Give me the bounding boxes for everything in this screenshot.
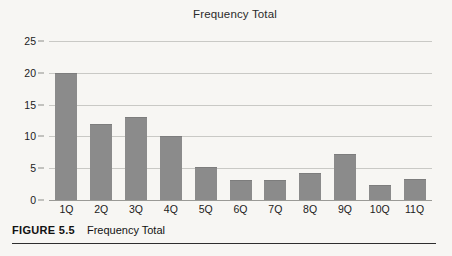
gridline-0: [49, 200, 432, 201]
x-axis-label-4Q: 4Q: [164, 203, 178, 215]
x-axis-label-1Q: 1Q: [59, 203, 73, 215]
y-axis-label-10: 10: [24, 130, 36, 142]
bar-7Q: [264, 180, 286, 200]
y-axis-label-0: 0: [30, 194, 36, 206]
x-axis-label-7Q: 7Q: [268, 203, 282, 215]
figure-caption: FIGURE 5.5Frequency Total: [12, 224, 165, 236]
figure-container: Frequency Total 0510152025 1Q2Q3Q4Q5Q6Q7…: [0, 0, 452, 256]
figure-caption-text: Frequency Total: [87, 224, 165, 236]
y-tick-10: [38, 136, 44, 137]
bar-10Q: [369, 185, 391, 200]
bar-1Q: [55, 73, 77, 200]
y-axis-label-20: 20: [24, 67, 36, 79]
chart-title: Frequency Total: [0, 8, 452, 20]
bar-9Q: [334, 154, 356, 200]
y-tick-0: [38, 200, 44, 201]
bar-series: [49, 41, 432, 200]
bar-2Q: [90, 124, 112, 200]
y-tick-25: [38, 41, 44, 42]
y-tick-15: [38, 104, 44, 105]
y-axis-label-15: 15: [24, 99, 36, 111]
x-axis-label-9Q: 9Q: [338, 203, 352, 215]
plot-area: [49, 41, 432, 200]
x-axis-label-10Q: 10Q: [370, 203, 390, 215]
x-axis-label-8Q: 8Q: [303, 203, 317, 215]
x-axis-label-3Q: 3Q: [129, 203, 143, 215]
bar-11Q: [404, 179, 426, 200]
y-axis-label-5: 5: [30, 162, 36, 174]
figure-number: FIGURE 5.5: [12, 224, 75, 236]
x-axis-label-2Q: 2Q: [94, 203, 108, 215]
x-axis-label-11Q: 11Q: [405, 203, 424, 215]
bar-4Q: [160, 136, 182, 200]
bar-8Q: [299, 173, 321, 200]
x-axis-label-6Q: 6Q: [233, 203, 247, 215]
caption-rule: [12, 243, 436, 244]
bar-5Q: [195, 167, 217, 200]
bar-6Q: [230, 180, 252, 200]
y-axis-label-25: 25: [24, 35, 36, 47]
y-axis: 0510152025: [0, 41, 44, 200]
y-tick-20: [38, 72, 44, 73]
y-tick-5: [38, 168, 44, 169]
x-axis-label-5Q: 5Q: [199, 203, 213, 215]
x-axis: 1Q2Q3Q4Q5Q6Q7Q8Q9Q10Q11Q: [49, 203, 432, 219]
bar-3Q: [125, 117, 147, 200]
